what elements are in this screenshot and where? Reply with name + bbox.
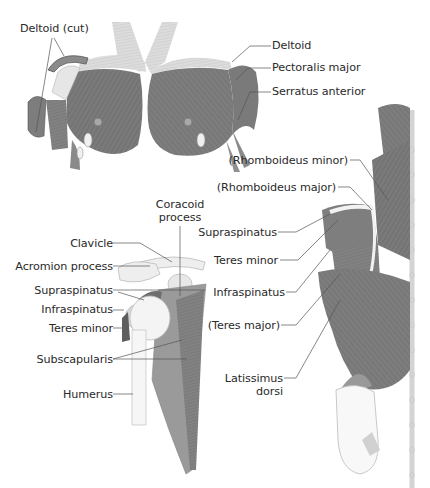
label-teres-minor-lateral: Teres minor (0, 322, 113, 335)
label-latissimus-dorsi: Latissimus dorsi (210, 372, 283, 398)
label-coracoid-line2: process (152, 211, 208, 224)
label-subscapularis: Subscapularis (0, 353, 113, 366)
label-deltoid-cut: Deltoid (cut) (20, 22, 89, 35)
label-clavicle: Clavicle (0, 237, 113, 250)
label-rhomboideus-minor: (Rhomboideus minor) (200, 154, 348, 167)
anterior-chest-view (28, 22, 271, 172)
label-pectoralis-major: Pectoralis major (272, 61, 360, 74)
label-supraspinatus-lateral: Supraspinatus (0, 284, 113, 297)
label-latissimus-line2: dorsi (210, 385, 283, 398)
label-teres-minor-posterior: Teres minor (190, 254, 278, 267)
label-teres-major: (Teres major) (190, 319, 280, 332)
label-humerus: Humerus (0, 388, 113, 401)
label-rhomboideus-major: (Rhomboideus major) (190, 181, 336, 194)
label-supraspinatus-posterior: Supraspinatus (190, 226, 277, 239)
shoulder-muscle-diagram: Deltoid (cut) Deltoid Pectoralis major S… (0, 0, 430, 488)
label-serratus-anterior: Serratus anterior (272, 85, 365, 98)
label-deltoid: Deltoid (272, 39, 311, 52)
label-acromion-process: Acromion process (0, 260, 113, 273)
label-latissimus-line1: Latissimus (210, 372, 283, 385)
label-coracoid-process: Coracoid process (152, 198, 208, 224)
label-infraspinatus-posterior: Infraspinatus (190, 286, 285, 299)
label-infraspinatus-lateral: Infraspinatus (0, 303, 113, 316)
label-coracoid-line1: Coracoid (152, 198, 208, 211)
